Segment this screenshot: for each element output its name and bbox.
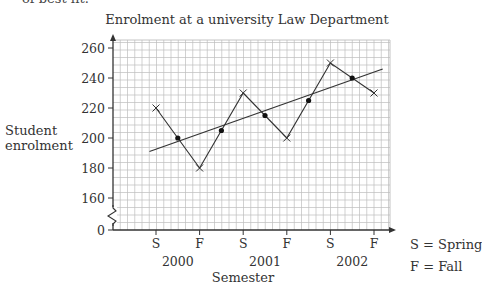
svg-text:2001: 2001 [249,254,281,269]
y-ticks: 0160180200220240260 [81,41,113,238]
svg-text:220: 220 [81,101,105,116]
svg-text:240: 240 [81,71,105,86]
chart-plot: 0160180200220240260 SFSFSF200020012002 [0,0,482,301]
svg-text:F: F [370,236,379,251]
svg-text:180: 180 [81,161,105,176]
x-ticks: SFSFSF200020012002 [152,230,379,269]
axes [108,34,396,233]
svg-text:160: 160 [81,191,105,206]
grid [113,40,390,230]
svg-text:S: S [239,236,248,251]
svg-text:S: S [152,236,161,251]
svg-text:2002: 2002 [336,254,368,269]
svg-text:260: 260 [81,41,105,56]
svg-text:F: F [282,236,291,251]
svg-text:S: S [326,236,335,251]
svg-text:0: 0 [97,223,105,238]
svg-text:200: 200 [81,131,105,146]
svg-text:F: F [195,236,204,251]
svg-text:2000: 2000 [162,254,194,269]
